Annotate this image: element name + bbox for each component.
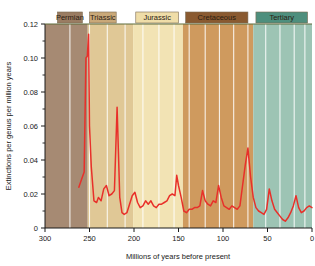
- x-tick-label: 0: [310, 234, 314, 243]
- x-tick-label: 50: [263, 234, 271, 243]
- y-tick-label: 0.10: [23, 54, 38, 63]
- x-tick-label: 200: [128, 234, 141, 243]
- period-band-cretaceous: [183, 24, 253, 228]
- y-tick-label: 0.02: [23, 190, 38, 199]
- period-label-cretaceous: Cretaceous: [198, 13, 237, 22]
- y-tick-label: 0.08: [23, 88, 38, 97]
- y-tick-label: 0.04: [23, 156, 38, 165]
- period-label-tertiary: Tertiary: [269, 13, 294, 22]
- x-axis-title: Millions of years before present: [126, 252, 231, 261]
- x-tick-label: 150: [172, 234, 185, 243]
- x-tick-label: 300: [39, 234, 52, 243]
- period-label-jurassic: Jurassic: [143, 13, 171, 22]
- period-band-jurassic: [133, 24, 183, 228]
- chart-canvas: PermianTriassicJurassicCretaceousTertiar…: [0, 0, 315, 266]
- x-tick-label: 250: [83, 234, 96, 243]
- period-band-permian: [45, 24, 88, 228]
- y-tick-label: 0: [34, 224, 38, 233]
- period-label-permian: Permian: [56, 13, 84, 22]
- x-tick-label: 100: [217, 234, 230, 243]
- period-band-tertiary: [253, 24, 312, 228]
- y-tick-label: 0.06: [23, 122, 38, 131]
- extinction-rate-chart: PermianTriassicJurassicCretaceousTertiar…: [0, 0, 315, 266]
- y-axis-title: Extinctions per genus per million years: [4, 62, 13, 191]
- y-tick-label: 0.12: [23, 20, 38, 29]
- period-label-triassic: Triassic: [90, 13, 116, 22]
- period-band-triassic: [88, 24, 133, 228]
